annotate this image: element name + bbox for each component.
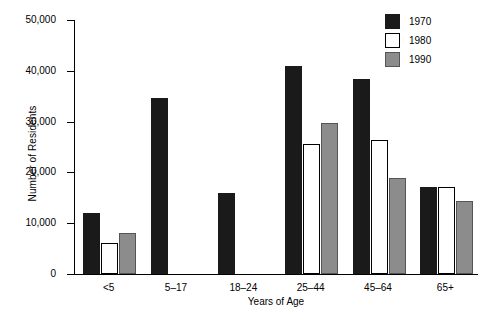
bar-group — [83, 20, 136, 274]
legend-label-1970: 1970 — [409, 17, 431, 27]
y-axis-tick — [67, 71, 74, 72]
legend-item-1970: 1970 — [385, 12, 431, 31]
legend: 197019801990 — [385, 12, 431, 69]
y-axis-tick — [67, 122, 74, 123]
bar-1970-18–24 — [218, 193, 235, 274]
bar-1990-<5 — [119, 233, 136, 274]
bar-group — [285, 20, 338, 274]
bar-1970-25–44 — [285, 66, 302, 274]
y-axis-title: Number of Residents — [27, 74, 38, 234]
y-axis-tick — [67, 274, 74, 275]
bar-1980-<5 — [101, 243, 118, 274]
legend-item-1990: 1990 — [385, 50, 431, 69]
y-axis-tick — [67, 20, 74, 21]
legend-swatch-1990 — [385, 52, 400, 67]
x-axis-line — [74, 274, 478, 275]
bar-chart: Number of Residents 010,00020,00030,0004… — [0, 0, 488, 324]
bar-1980-25–44 — [303, 144, 320, 274]
legend-item-1980: 1980 — [385, 31, 431, 50]
x-axis-tick-label: 18–24 — [210, 282, 277, 293]
y-axis-tick-label: 0 — [0, 269, 56, 279]
legend-swatch-1970 — [385, 14, 400, 29]
bar-1980-45–64 — [371, 140, 388, 274]
bar-1990-45–64 — [389, 178, 406, 274]
bar-group — [218, 20, 271, 274]
x-axis-title: Years of Age — [74, 296, 478, 307]
y-axis-tick-label: 40,000 — [0, 66, 56, 76]
y-axis-tick-label: 30,000 — [0, 117, 56, 127]
y-axis-tick-label: 50,000 — [0, 15, 56, 25]
bar-group — [151, 20, 204, 274]
x-axis-tick-label: 65+ — [412, 282, 479, 293]
bar-1990-65+ — [456, 201, 473, 274]
bar-1970-45–64 — [353, 79, 370, 274]
bar-1970-<5 — [83, 213, 100, 274]
y-axis-tick — [67, 223, 74, 224]
y-axis-tick-label: 20,000 — [0, 167, 56, 177]
x-axis-tick-label: 5–17 — [142, 282, 209, 293]
legend-label-1980: 1980 — [409, 36, 431, 46]
x-axis-tick-label: <5 — [75, 282, 142, 293]
bar-1980-65+ — [438, 187, 455, 274]
bar-1990-25–44 — [321, 123, 338, 274]
legend-swatch-1980 — [385, 33, 400, 48]
y-axis-tick — [67, 172, 74, 173]
bar-1970-5–17 — [151, 98, 168, 274]
y-axis-tick-label: 10,000 — [0, 218, 56, 228]
bar-1970-65+ — [420, 187, 437, 274]
legend-label-1990: 1990 — [409, 55, 431, 65]
x-axis-tick-label: 25–44 — [277, 282, 344, 293]
x-axis-tick-label: 45–64 — [344, 282, 411, 293]
